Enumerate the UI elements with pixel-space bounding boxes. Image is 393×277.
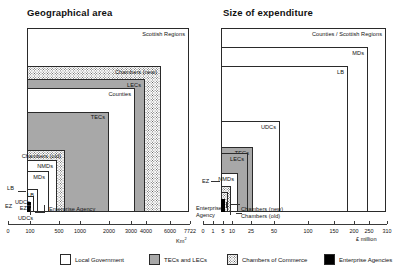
box-label-counties: Counties: [109, 92, 131, 98]
plot-area-left: Scottish RegionsChambers (new)LECsCounti…: [0, 0, 198, 245]
legend-swatch-tecs-and-lecs: [149, 254, 160, 265]
legend-label-local-government: Local Government: [75, 257, 124, 263]
box-label-scottish-regions: Scottish Regions: [142, 32, 185, 38]
legend-swatch-local-government: [60, 254, 71, 265]
callout-udcs: UDCs: [18, 215, 33, 222]
figure-root: Geographical area Scottish RegionsChambe…: [0, 0, 393, 277]
box-label-counties-scottish-regions: Counties / Scottish Regions: [312, 32, 382, 38]
axis-tick-label: 1000: [74, 228, 86, 234]
legend: Local GovernmentTECs and LECsChambers of…: [0, 248, 393, 277]
box-label-mds: MDs: [33, 175, 45, 181]
axis-tick-label: 0: [202, 228, 205, 234]
axis-tick: [131, 221, 132, 224]
box-label-nmds: NMDs: [37, 164, 53, 170]
callout-leader-line: [30, 208, 31, 215]
legend-item-enterprise-agencies[interactable]: Enterprise Agencies: [324, 254, 392, 265]
axis-tick: [308, 221, 309, 224]
axis-tick-label: 0: [7, 228, 10, 234]
axis-tick-label: 50: [271, 228, 277, 234]
axis-tick: [232, 221, 233, 224]
axis-tick-label: 4000: [140, 228, 152, 234]
box-label-mds: MDs: [352, 51, 364, 57]
axis-baseline: [8, 224, 190, 225]
axis-tick-label: 250: [365, 228, 374, 234]
axis-tick: [80, 221, 81, 224]
axis-tick: [223, 221, 224, 224]
callout-leader-line: [27, 205, 31, 206]
callout-leader-line: [44, 205, 45, 211]
axis-tick-label: 500: [55, 228, 64, 234]
axis-tick: [190, 221, 191, 224]
legend-item-chambers-of-commerce[interactable]: Chambers of Commerce: [227, 254, 307, 265]
callout-enterprise-agency: Enterprise Agency: [49, 206, 95, 213]
axis-tick: [59, 221, 60, 224]
callout-enterprise-agency: Enterprise Agency: [196, 205, 222, 219]
axis-tick-label: 150: [330, 228, 339, 234]
axis-tick: [170, 221, 171, 224]
legend-label-tecs-and-lecs: TECs and LECs: [164, 257, 207, 263]
panel-geographical-area: Geographical area Scottish RegionsChambe…: [0, 0, 198, 245]
callout-leader-line: [35, 212, 45, 213]
axis-tick-label: 100: [26, 228, 35, 234]
callout-leader-line: [18, 191, 26, 192]
axis-tick: [203, 221, 204, 224]
axis-tick-label: 3000: [125, 228, 137, 234]
axis-tick-label: 6000: [164, 228, 176, 234]
callout-ez: EZ: [5, 203, 12, 210]
axis-tick: [369, 221, 370, 224]
axis-tick: [334, 221, 335, 224]
callout-lb: LB: [7, 185, 14, 192]
axis-tick: [274, 221, 275, 224]
axis-tick-label: 200: [350, 228, 359, 234]
axis-tick-label: 10: [229, 228, 235, 234]
legend-label-chambers-of-commerce: Chambers of Commerce: [242, 257, 307, 263]
axis-tick: [354, 221, 355, 224]
legend-label-enterprise-agencies: Enterprise Agencies: [339, 257, 392, 263]
callout-chambers-new: Chambers (new): [241, 206, 283, 213]
axis-tick: [387, 221, 388, 224]
callout-leader-line: [226, 202, 227, 208]
box-label-lecs: LECs: [230, 157, 244, 163]
axis-baseline: [203, 224, 387, 225]
callout-leader-line: [231, 204, 240, 205]
legend-item-tecs-and-lecs[interactable]: TECs and LECs: [149, 254, 207, 265]
axis-tick: [251, 221, 252, 224]
legend-swatch-chambers-of-commerce: [227, 254, 238, 265]
box-label-udcs: UDCs: [261, 125, 276, 131]
axis-tick-label: 5: [222, 228, 225, 234]
callout-chambers-old: Chambers (old): [241, 213, 280, 220]
x-axis-unit-left: Km2: [176, 236, 187, 244]
box-label-ez: EZ: [20, 206, 27, 212]
legend-swatch-enterprise-agencies: [324, 254, 335, 265]
legend-item-local-government[interactable]: Local Government: [60, 254, 124, 265]
axis-tick-label: 2000: [103, 228, 115, 234]
plot-area-right: Counties / Scottish RegionsMDsLBUDCsTECs…: [196, 0, 393, 245]
axis-tick-label: 1: [212, 228, 215, 234]
axis-tick: [146, 221, 147, 224]
box-label-tecs: TECs: [91, 115, 105, 121]
callout-leader-line: [230, 209, 231, 215]
callout-ez: EZ: [202, 178, 209, 185]
callout-leader-line: [211, 181, 220, 182]
box-label-chambers-old: Chambers (old): [22, 154, 61, 160]
axis-tick: [109, 221, 110, 224]
panel-size-of-expenditure: Size of expenditure Counties / Scottish …: [196, 0, 393, 245]
x-axis-unit-right: £ million: [356, 236, 377, 242]
axis-tick: [213, 221, 214, 224]
axis-tick: [8, 221, 9, 224]
axis-tick-label: 310: [383, 228, 392, 234]
box-label-nmds: NMDs: [218, 177, 234, 183]
axis-tick-label: 25: [248, 228, 254, 234]
box-label-lb: LB: [337, 70, 344, 76]
box-label-chambers-new: Chambers (new): [115, 70, 157, 76]
axis-tick-label: 100: [304, 228, 313, 234]
axis-unit-superscript: 2: [184, 236, 186, 241]
axis-tick-label: 7722: [184, 228, 196, 234]
